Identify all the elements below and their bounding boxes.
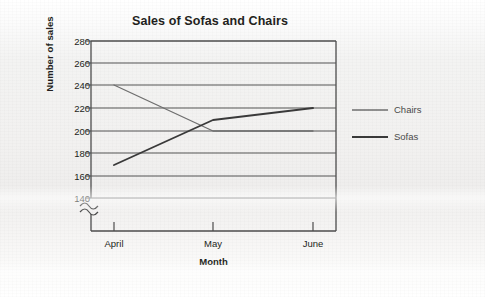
legend-label-sofas: Sofas — [394, 131, 418, 142]
axis-break-squiggle-icon — [80, 203, 98, 231]
plot-frame — [91, 41, 336, 231]
chart-page: Sales of Sofas and Chairs Number of sale… — [0, 0, 485, 297]
x-axis — [91, 222, 336, 231]
y-tick-marks — [85, 41, 91, 198]
legend-label-chairs: Chairs — [394, 104, 421, 115]
series-line-sofas — [114, 108, 313, 165]
chart-plot-area — [0, 0, 485, 297]
